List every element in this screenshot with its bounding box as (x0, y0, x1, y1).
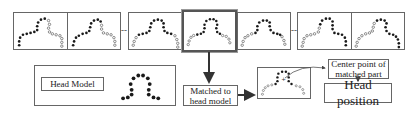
silhouette-contour-icon (184, 12, 235, 50)
matched-silhouette-icon: + (258, 68, 310, 98)
head-position-box: Head position (324, 83, 392, 103)
center-line-1: Center point of (331, 59, 386, 69)
frame-6 (297, 12, 352, 50)
silhouette-contour-icon (14, 13, 67, 49)
head-model-panel: Head Model (34, 65, 176, 106)
silhouette-contour-icon (129, 13, 182, 49)
silhouette-contour-icon (238, 13, 290, 49)
matched-line-2: head model (190, 96, 232, 106)
frame-3 (128, 12, 183, 50)
silhouette-contour-icon (352, 13, 404, 49)
svg-text:+: + (281, 76, 286, 82)
head-model-template-icon (35, 66, 175, 105)
center-point-box: Center point of matched part (328, 59, 389, 79)
frame-1 (13, 12, 68, 50)
matched-line-1: Matched to (190, 86, 231, 96)
silhouette-contour-icon (68, 13, 120, 49)
matched-part-frame: + (257, 67, 311, 99)
frame-2 (67, 12, 121, 50)
frame-5 (237, 12, 291, 50)
silhouette-contour-icon (298, 13, 351, 49)
matched-to-head-model-box: Matched to head model (183, 85, 238, 106)
sequence-separator: -- (121, 26, 127, 35)
head-position-label: Head position (325, 77, 391, 109)
frame-7 (351, 12, 405, 50)
frame-4-selected (182, 10, 237, 52)
